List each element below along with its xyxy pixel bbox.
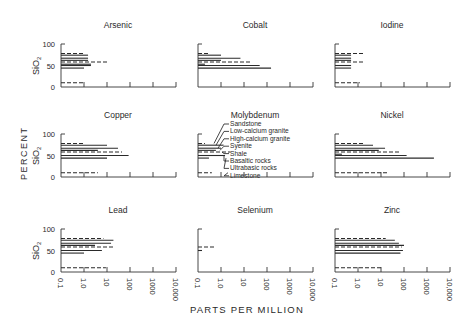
legend-leader-line — [220, 146, 229, 150]
y-tick-label: 0 — [51, 173, 55, 182]
y-tick-label: 100 — [42, 225, 55, 234]
panel-title: Lead — [109, 205, 128, 215]
axis-lines — [335, 44, 450, 87]
y-axis-inner-label: SiO2 — [31, 56, 42, 75]
panel-zinc: Zinc0.11.010100100010,000 — [330, 205, 454, 301]
x-tick-label: 1000 — [285, 278, 294, 295]
legend: SandstoneLow-calcium graniteHigh-calcium… — [214, 120, 290, 179]
panel-title: Copper — [104, 110, 132, 120]
panel-cobalt: Cobalt — [198, 20, 313, 87]
panel-arsenic: Arsenic050100SiO2 — [31, 20, 176, 92]
legend-leader-line — [224, 158, 229, 168]
x-tick-label: 10,000 — [171, 278, 180, 301]
legend-entry: Limestone — [230, 172, 261, 179]
x-tick-label: 10 — [102, 278, 111, 286]
legend-leader-line — [224, 173, 229, 176]
panel-title: Iodine — [380, 20, 403, 30]
x-tick-label: 0.1 — [330, 278, 339, 288]
y-axis-inner-label: SiO2 — [31, 241, 42, 260]
panel-title: Nickel — [380, 110, 403, 120]
legend-entry: Ultrabasic rocks — [230, 164, 278, 171]
x-axis-label: PARTS PER MILLION — [190, 304, 304, 315]
y-tick-label: 0 — [51, 268, 55, 277]
panel-molybdenum: MolybdenumSandstoneLow-calcium graniteHi… — [198, 110, 313, 179]
x-tick-label: 100 — [125, 278, 134, 291]
panel-title: Arsenic — [104, 20, 133, 30]
x-tick-label: 100 — [262, 278, 271, 291]
legend-leader-line — [224, 156, 229, 162]
legend-leader-line — [216, 131, 229, 145]
x-tick-label: 0.1 — [56, 278, 65, 288]
panel-title: Zinc — [384, 205, 401, 215]
x-tick-label: 1000 — [422, 278, 431, 295]
panels-group: Arsenic050100SiO2CobaltIodineCopper05010… — [31, 20, 454, 301]
panel-selenium: Selenium0.11.010100100010,000 — [193, 205, 317, 301]
x-tick-label: 10 — [376, 278, 385, 286]
y-tick-label: 50 — [47, 152, 55, 161]
panel-copper: Copper050100SiO2 — [31, 110, 176, 182]
y-tick-label: 50 — [47, 62, 55, 71]
panel-iodine: Iodine — [335, 20, 450, 87]
x-tick-label: 1.0 — [353, 278, 362, 288]
y-axis-inner-label: SiO2 — [31, 146, 42, 165]
y-tick-label: 100 — [42, 130, 55, 139]
x-tick-label: 10,000 — [308, 278, 317, 301]
x-tick-label: 1000 — [148, 278, 157, 295]
legend-entry: Sandstone — [230, 120, 262, 127]
y-tick-label: 50 — [47, 247, 55, 256]
x-tick-label: 1.0 — [216, 278, 225, 288]
panel-title: Molybdenum — [231, 110, 280, 120]
x-tick-label: 10,000 — [445, 278, 454, 301]
y-axis-outer-label: PERCENT — [19, 126, 29, 180]
x-tick-label: 100 — [399, 278, 408, 291]
x-tick-label: 10 — [239, 278, 248, 286]
panel-title: Selenium — [237, 205, 272, 215]
y-tick-label: 100 — [42, 40, 55, 49]
y-tick-label: 0 — [51, 83, 55, 92]
legend-entry: Basaltic rocks — [230, 157, 271, 164]
panel-lead: Lead050100SiO20.11.010100100010,000 — [31, 205, 180, 301]
legend-leader-line — [214, 124, 229, 143]
panel-title: Cobalt — [243, 20, 268, 30]
axis-lines — [198, 229, 313, 272]
legend-entry: Shale — [230, 150, 247, 157]
panel-nickel: Nickel — [335, 110, 450, 177]
x-tick-label: 1.0 — [79, 278, 88, 288]
figure: Arsenic050100SiO2CobaltIodineCopper05010… — [0, 0, 471, 335]
x-tick-label: 0.1 — [193, 278, 202, 288]
